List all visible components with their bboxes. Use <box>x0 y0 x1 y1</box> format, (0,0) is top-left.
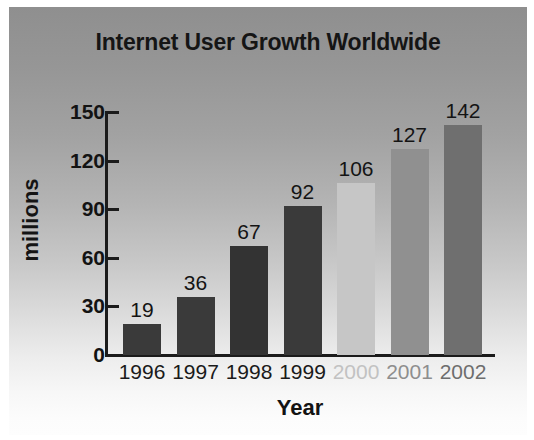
chart-canvas: Internet User Growth Worldwide millions … <box>9 7 527 435</box>
bar-value-label: 106 <box>324 158 388 179</box>
chart-page: Internet User Growth Worldwide millions … <box>0 0 534 440</box>
bar[interactable] <box>391 149 429 355</box>
bar-value-label: 36 <box>164 272 228 293</box>
bar[interactable] <box>444 125 482 355</box>
bar-value-label: 92 <box>271 181 335 202</box>
plot-area: 1919963619976719989219991062000127200114… <box>9 7 527 435</box>
bar-value-label: 67 <box>217 221 281 242</box>
bar[interactable] <box>177 297 215 355</box>
bar-value-label: 127 <box>378 124 442 145</box>
bar[interactable] <box>123 324 161 355</box>
bar[interactable] <box>230 246 268 355</box>
bar-value-label: 19 <box>110 299 174 320</box>
bar[interactable] <box>337 183 375 355</box>
bar-value-label: 142 <box>431 100 495 121</box>
bar[interactable] <box>284 206 322 355</box>
x-axis-category-label: 2002 <box>431 361 495 382</box>
